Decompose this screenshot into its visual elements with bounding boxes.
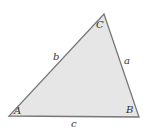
vertex-label-b: B: [125, 104, 133, 115]
triangle-diagram: A B C a b c: [0, 0, 150, 134]
vertex-label-c: C: [96, 19, 104, 30]
side-label-a: a: [124, 55, 130, 66]
triangle-abc: [9, 14, 139, 117]
vertex-label-a: A: [13, 105, 21, 116]
side-label-b: b: [53, 51, 59, 62]
side-label-c: c: [71, 118, 77, 129]
